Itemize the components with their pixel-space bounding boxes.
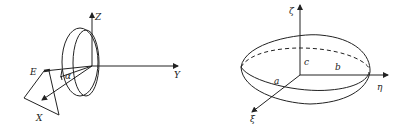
label-eta: η xyxy=(377,82,383,92)
e-thick-segment xyxy=(44,70,50,71)
label-xi: ξ xyxy=(250,114,256,124)
label-b: b xyxy=(335,62,341,72)
label-e: E xyxy=(29,67,37,77)
left-diagram xyxy=(24,13,178,115)
alpha-arc xyxy=(61,70,62,80)
label-z: Z xyxy=(94,12,102,22)
equator-front xyxy=(241,67,369,90)
disc-front-ellipse xyxy=(62,28,98,96)
label-alpha: α xyxy=(65,71,71,81)
right-diagram xyxy=(241,5,388,112)
label-y: Y xyxy=(174,70,181,80)
label-zeta: ζ xyxy=(289,6,295,16)
label-a: a xyxy=(274,76,279,86)
label-x: X xyxy=(35,113,43,123)
disc-back-ellipse xyxy=(73,30,99,96)
label-c: c xyxy=(304,57,309,67)
figure: Z Y X E α ζ η ξ a b c xyxy=(0,0,409,128)
ellipsoid-bottom-outline xyxy=(241,67,370,104)
x-plane-triangle xyxy=(24,71,59,115)
